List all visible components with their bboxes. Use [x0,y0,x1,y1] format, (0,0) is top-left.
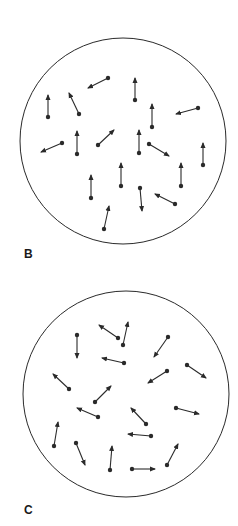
dipole-dot-icon [165,463,169,467]
dipole-arrow [89,175,93,200]
dipole-arrow [108,446,112,472]
dipole-dot-icon [67,387,71,391]
dipole-dot-icon [52,444,56,448]
dipole-arrow [165,444,178,467]
dipole-dot-icon [137,151,141,155]
dipole-dot-icon [46,115,50,119]
dipole-dot-icon [106,76,110,80]
dipole-dot-icon [173,202,177,206]
arrow-shaft-icon [69,93,79,114]
dipole-arrow [179,163,183,188]
arrow-shaft-icon [128,434,151,436]
dipole-dot-icon [93,400,97,404]
dipole-arrow [77,408,100,419]
arrow-shaft-icon [167,444,178,465]
arrow-shaft-icon [104,206,109,229]
dipole-arrow [131,408,148,426]
arrow-shaft-icon [110,446,112,470]
dipole-arrow [133,78,137,102]
dipole-arrow [102,206,109,231]
dipole-arrow [176,106,200,114]
dipole-dot-icon [96,415,100,419]
dipole-arrow [201,143,205,167]
dipole-dot-icon [89,196,93,200]
arrow-shaft-icon [131,408,146,424]
dipole-arrow [53,374,71,391]
dipole-dot-icon [138,186,142,190]
panel-b-diagram [20,38,226,244]
dipole-dot-icon [119,184,123,188]
dipole-dot-icon [96,143,100,147]
panel-label-c: C [24,503,33,517]
dipole-dot-icon [130,467,134,471]
dipole-dot-icon [74,441,78,445]
arrow-shaft-icon [88,78,108,88]
dipole-dot-icon [77,112,81,116]
dipole-dot-icon [147,142,151,146]
dipole-arrow [52,422,58,448]
arrow-shaft-icon [155,194,175,204]
arrow-shaft-icon [149,144,169,156]
arrow-shaft-icon [154,337,168,357]
boundary-circle [20,38,226,244]
diagram-canvas [0,0,238,526]
dipole-arrow [119,163,123,188]
dipole-arrow [75,131,79,156]
dipole-dot-icon [150,125,154,129]
dipole-dot-icon [133,98,137,102]
arrow-shaft-icon [102,358,124,363]
dipole-arrow [69,93,81,116]
dipole-arrow [155,194,177,206]
dipole-dot-icon [108,468,112,472]
dipole-arrow [74,441,85,465]
dipole-dot-icon [121,343,125,347]
dipole-arrow [99,325,120,340]
dipole-arrow [138,186,142,211]
dipole-dot-icon [116,336,120,340]
dipole-arrow [130,467,155,471]
dipole-arrow [150,104,154,129]
arrow-shaft-icon [187,365,206,378]
arrow-shaft-icon [95,386,111,402]
arrow-shaft-icon [76,443,85,465]
dipole-arrow [75,333,79,358]
arrow-shaft-icon [53,374,69,389]
dipole-arrow [174,406,199,414]
arrow-shaft-icon [140,188,142,211]
dipole-dot-icon [122,361,126,365]
dipole-arrow [148,369,169,383]
arrow-shaft-icon [77,408,98,417]
dipole-arrow [121,322,128,347]
dipole-dot-icon [196,106,200,110]
arrow-shaft-icon [148,371,167,383]
arrow-shaft-icon [176,408,199,414]
dipole-dot-icon [75,152,79,156]
dipole-dot-icon [60,141,64,145]
dipole-dot-icon [166,335,170,339]
dipole-arrow [137,130,141,155]
arrow-shaft-icon [98,130,114,145]
dipole-dot-icon [144,422,148,426]
dipole-arrow [147,142,169,156]
dipole-arrow [185,363,206,378]
dipole-arrow [93,386,111,404]
arrow-shaft-icon [99,325,118,338]
arrow-shaft-icon [123,322,128,345]
dipole-arrow [88,76,110,88]
dipole-dot-icon [179,184,183,188]
dipole-dot-icon [201,163,205,167]
dipole-arrow [128,434,153,438]
dipole-dot-icon [165,369,169,373]
panel-c-diagram [23,291,229,497]
dipole-arrow [46,95,50,119]
boundary-circle [23,291,229,497]
dipole-arrow [154,335,170,357]
dipole-dot-icon [174,406,178,410]
arrow-shaft-icon [176,108,198,114]
dipole-arrow [96,130,114,147]
dipole-dot-icon [75,333,79,337]
arrow-shaft-icon [41,143,62,152]
arrow-shaft-icon [54,422,58,446]
panel-label-b: B [24,247,33,261]
dipole-dot-icon [185,363,189,367]
